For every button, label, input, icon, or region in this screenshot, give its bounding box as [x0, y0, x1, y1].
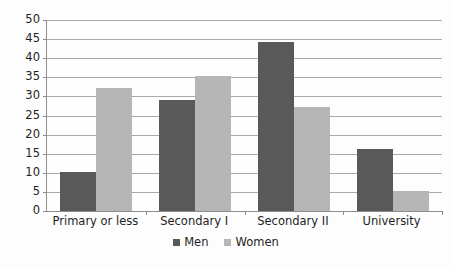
- y-axis-tick-label: 10: [25, 167, 40, 179]
- y-tick-mark: [43, 77, 47, 78]
- y-axis-tick-label: 0: [33, 205, 40, 217]
- chart-legend: MenWomen: [0, 237, 452, 249]
- y-tick-mark: [43, 58, 47, 59]
- y-axis-tick-label: 40: [25, 52, 40, 64]
- y-axis-tick-label: 25: [25, 110, 40, 122]
- legend-swatch-icon: [173, 239, 180, 246]
- y-tick-mark: [43, 211, 47, 212]
- y-axis-tick-label: 15: [25, 148, 40, 160]
- bar-men-0: [60, 172, 96, 211]
- bar-men-3: [357, 149, 393, 211]
- x-tick-mark: [146, 211, 147, 215]
- bar-group: [159, 20, 231, 211]
- bar-group: [357, 20, 429, 211]
- y-axis-tick-label: 5: [33, 186, 40, 198]
- bar-women-1: [195, 76, 231, 211]
- y-axis-tick-label: 35: [25, 72, 40, 84]
- y-axis-tick-label: 45: [25, 33, 40, 45]
- bar-chart: 05101520253035404550 Primary or lessSeco…: [0, 0, 452, 268]
- bar-group: [258, 20, 330, 211]
- x-axis-category-label: Primary or less: [52, 216, 138, 228]
- legend-label: Men: [184, 237, 208, 249]
- legend-swatch-icon: [224, 239, 231, 246]
- y-tick-mark: [43, 192, 47, 193]
- bar-group: [60, 20, 132, 211]
- y-tick-mark: [43, 173, 47, 174]
- x-axis-category-label: University: [363, 216, 421, 228]
- legend-item-women[interactable]: Women: [224, 237, 278, 249]
- y-tick-mark: [43, 116, 47, 117]
- bar-women-3: [393, 191, 429, 211]
- legend-item-men[interactable]: Men: [173, 237, 208, 249]
- bar-men-1: [159, 100, 195, 211]
- x-axis-category-label: Secondary I: [160, 216, 228, 228]
- y-axis-tick-label: 30: [25, 91, 40, 103]
- y-tick-mark: [43, 135, 47, 136]
- x-tick-mark: [343, 211, 344, 215]
- y-tick-mark: [43, 96, 47, 97]
- x-tick-mark: [442, 211, 443, 215]
- y-axis-tick-label: 50: [25, 14, 40, 26]
- y-axis-tick-label: 20: [25, 129, 40, 141]
- x-axis-category-label: Secondary II: [257, 216, 328, 228]
- y-tick-mark: [43, 20, 47, 21]
- bar-women-2: [294, 107, 330, 211]
- bar-men-2: [258, 42, 294, 211]
- bar-women-0: [96, 88, 132, 211]
- plot-area: 05101520253035404550: [46, 20, 442, 212]
- x-tick-mark: [245, 211, 246, 215]
- legend-label: Women: [235, 237, 278, 249]
- y-tick-mark: [43, 154, 47, 155]
- y-tick-mark: [43, 39, 47, 40]
